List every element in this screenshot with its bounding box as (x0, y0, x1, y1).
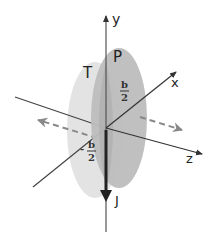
svg-text:b: b (121, 79, 128, 90)
svg-text:-: - (80, 143, 84, 154)
svg-text:2: 2 (88, 152, 95, 163)
plus-half-b-label: b 2 (120, 79, 129, 103)
plane-t-label: T (82, 64, 93, 82)
svg-text:b: b (88, 139, 95, 150)
current-j-label: J (114, 193, 119, 208)
svg-text:2: 2 (121, 92, 128, 103)
plane-p-label: P (113, 48, 122, 66)
x-axis-label: x (171, 75, 179, 90)
y-axis-label: y (112, 11, 120, 27)
z-axis-label: z (186, 151, 193, 166)
diagram-canvas: y x z T P J b 2 - b 2 (0, 0, 214, 237)
